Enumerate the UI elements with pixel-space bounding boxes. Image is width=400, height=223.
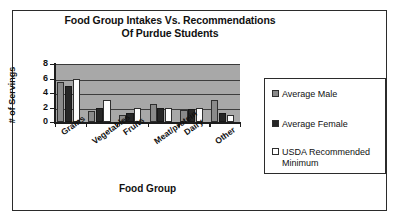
x-category-label-other: Other xyxy=(213,125,237,146)
chart-legend: Average MaleAverage FemaleUSDA Recommend… xyxy=(264,78,386,174)
bar-vegetables-male xyxy=(88,111,95,122)
y-tick-4 xyxy=(50,93,55,94)
y-tick-2 xyxy=(50,108,55,109)
x-tick-2 xyxy=(117,122,118,127)
bar-meat-protein-male xyxy=(150,104,157,122)
y-axis-tick-labels: 86420 xyxy=(28,0,48,223)
bar-meat-protein-female xyxy=(157,108,164,123)
legend-swatch-usda-icon xyxy=(272,148,279,155)
bar-vegetables-female xyxy=(96,108,103,123)
y-tick-6 xyxy=(50,79,55,80)
x-tick-1 xyxy=(86,122,87,127)
legend-swatch-female-icon xyxy=(272,120,279,127)
bar-grains-female xyxy=(65,86,72,122)
x-tick-5 xyxy=(209,122,210,127)
x-tick-0 xyxy=(55,122,56,127)
legend-item-male: Average Male xyxy=(272,89,382,100)
y-tick-label-6: 6 xyxy=(28,74,48,83)
chart-figure: Food Group Intakes Vs. Recommendations O… xyxy=(0,0,400,223)
y-tick-label-4: 4 xyxy=(28,88,48,97)
legend-label-usda: USDA Recommended Minimum xyxy=(282,147,382,168)
legend-swatch-male-icon xyxy=(272,90,279,97)
legend-item-usda: USDA Recommended Minimum xyxy=(272,147,382,168)
bar-other-male xyxy=(211,100,218,122)
legend-item-female: Average Female xyxy=(272,119,382,130)
x-tick-4 xyxy=(178,122,179,127)
gridline-6 xyxy=(55,80,240,81)
x-tick-3 xyxy=(148,122,149,127)
legend-label-female: Average Female xyxy=(282,119,348,130)
bar-other-female xyxy=(219,113,226,122)
bar-other-usda xyxy=(227,115,234,122)
bar-grains-male xyxy=(57,82,64,122)
y-tick-label-8: 8 xyxy=(28,59,48,68)
legend-label-male: Average Male xyxy=(282,89,337,100)
y-axis-title: # of Servings xyxy=(7,59,17,131)
x-tick-end xyxy=(240,122,241,127)
bar-meat-protein-usda xyxy=(165,108,172,123)
gridline-4 xyxy=(55,94,240,95)
y-tick-label-0: 0 xyxy=(28,117,48,126)
y-tick-8 xyxy=(50,64,55,65)
y-tick-label-2: 2 xyxy=(28,103,48,112)
bar-vegetables-usda xyxy=(103,100,110,122)
x-axis-title: Food Group xyxy=(60,183,235,194)
